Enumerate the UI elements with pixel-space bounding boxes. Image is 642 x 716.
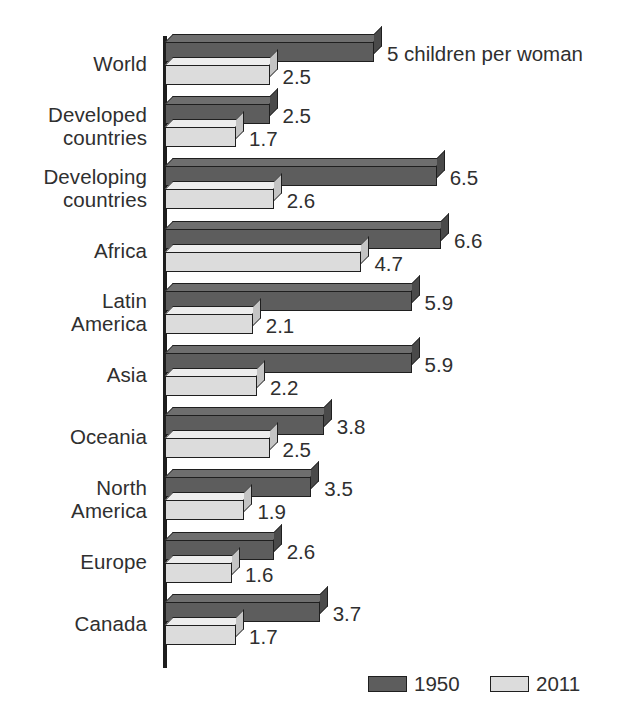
legend-item-2011[interactable]: 2011 xyxy=(490,672,580,696)
value-label: 1.7 xyxy=(249,129,278,149)
bar-face xyxy=(165,376,257,396)
value-label: 6.6 xyxy=(454,231,483,251)
bar-2011-developed-countries xyxy=(165,127,236,147)
legend-label: 1950 xyxy=(414,674,460,694)
value-label: 1.6 xyxy=(245,565,274,585)
bar-2011-asia xyxy=(165,376,257,396)
value-label: 2.1 xyxy=(266,316,295,336)
bar-2011-africa xyxy=(165,252,361,272)
bar-top-face xyxy=(165,594,328,602)
category-label: Developing countries xyxy=(0,165,147,211)
value-label: 5.9 xyxy=(425,293,454,313)
category-label: Asia xyxy=(0,363,147,386)
bar-top-face xyxy=(165,96,278,104)
bar-side-face xyxy=(244,484,252,512)
bar-2011-europe xyxy=(165,563,232,583)
bar-side-face xyxy=(412,337,420,365)
bar-top-face xyxy=(165,492,252,500)
value-label: 5.9 xyxy=(425,355,454,375)
bar-top-face xyxy=(165,221,449,229)
bar-top-face xyxy=(165,555,240,563)
bar-2011-north-america xyxy=(165,500,244,520)
bar-face xyxy=(165,625,236,645)
value-label: 4.7 xyxy=(374,254,403,274)
bar-top-face xyxy=(165,244,369,252)
legend-swatch-icon xyxy=(490,676,529,692)
bar-top-face xyxy=(165,181,282,189)
bar-face xyxy=(165,252,361,272)
fertility-bar-chart: WorldDeveloped countriesDeveloping count… xyxy=(0,0,642,716)
bar-top-face xyxy=(165,430,278,438)
bar-side-face xyxy=(374,26,382,54)
bar-top-face xyxy=(165,407,332,415)
bar-side-face xyxy=(311,461,319,489)
bar-side-face xyxy=(274,524,282,552)
value-label: 2.5 xyxy=(283,67,312,87)
value-label: 3.5 xyxy=(324,479,353,499)
bar-face xyxy=(165,563,232,583)
bar-face xyxy=(165,500,244,520)
category-label: Europe xyxy=(0,550,147,573)
bar-2011-world xyxy=(165,65,270,85)
bar-top-face xyxy=(165,57,278,65)
bar-top-face xyxy=(165,119,244,127)
category-axis-labels: WorldDeveloped countriesDeveloping count… xyxy=(0,0,147,666)
bar-face xyxy=(165,65,270,85)
plot-area: 5 children per woman2.52.51.76.52.66.64.… xyxy=(163,30,642,666)
bar-side-face xyxy=(412,275,420,303)
bar-2011-canada xyxy=(165,625,236,645)
value-label: 2.6 xyxy=(287,542,316,562)
value-label: 1.7 xyxy=(249,627,278,647)
legend-swatch-icon xyxy=(368,676,407,692)
bar-side-face xyxy=(441,213,449,241)
bar-2011-developing-countries xyxy=(165,189,274,209)
bar-top-face xyxy=(165,283,420,291)
category-label: Latin America xyxy=(0,289,147,335)
bar-2011-latin-america xyxy=(165,314,253,334)
value-label: 5 children per woman xyxy=(387,44,583,64)
bar-face xyxy=(165,438,270,458)
bar-2011-oceania xyxy=(165,438,270,458)
value-label: 1.9 xyxy=(257,502,286,522)
bar-top-face xyxy=(165,345,420,353)
bar-face xyxy=(165,189,274,209)
bar-side-face xyxy=(270,88,278,116)
chart-legend: 19502011 xyxy=(368,672,608,702)
category-label: Africa xyxy=(0,239,147,262)
bar-top-face xyxy=(165,469,319,477)
bar-top-face xyxy=(165,532,282,540)
category-label: North America xyxy=(0,476,147,522)
value-label: 2.5 xyxy=(283,440,312,460)
bar-top-face xyxy=(165,306,261,314)
value-label: 2.6 xyxy=(287,191,316,211)
bar-top-face xyxy=(165,34,382,42)
value-label: 2.2 xyxy=(270,378,299,398)
category-label: Oceania xyxy=(0,425,147,448)
bar-face xyxy=(165,314,253,334)
category-label: World xyxy=(0,52,147,75)
legend-label: 2011 xyxy=(536,674,580,694)
bar-side-face xyxy=(320,586,328,614)
value-label: 6.5 xyxy=(450,168,479,188)
value-label: 2.5 xyxy=(283,106,312,126)
category-label: Developed countries xyxy=(0,103,147,149)
value-label: 3.7 xyxy=(333,604,362,624)
category-label: Canada xyxy=(0,612,147,635)
bar-top-face xyxy=(165,617,244,625)
bar-face xyxy=(165,127,236,147)
bar-top-face xyxy=(165,158,445,166)
bar-side-face xyxy=(437,150,445,178)
legend-item-1950[interactable]: 1950 xyxy=(368,672,460,696)
bar-side-face xyxy=(324,399,332,427)
value-label: 3.8 xyxy=(337,417,366,437)
bar-top-face xyxy=(165,368,265,376)
